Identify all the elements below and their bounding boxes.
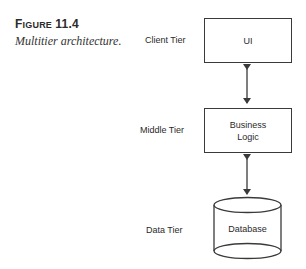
business-logic-box: Business Logic bbox=[204, 108, 292, 153]
ui-component-label: UI bbox=[244, 35, 253, 47]
database-label: Database bbox=[214, 224, 281, 234]
business-logic-label-line2: Logic bbox=[237, 131, 259, 143]
ui-component-box: UI bbox=[204, 18, 292, 63]
business-logic-label-line1: Business bbox=[230, 119, 267, 131]
